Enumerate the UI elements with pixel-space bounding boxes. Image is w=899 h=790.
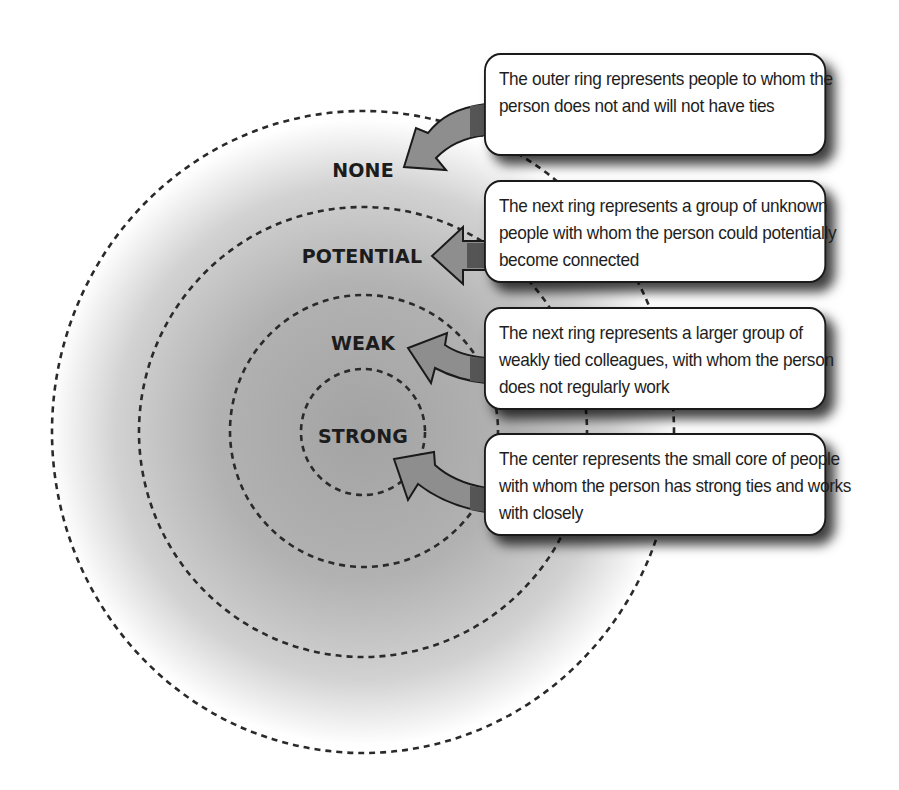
ring-label-none: NONE (332, 159, 394, 181)
ring-label-strong: STRONG (318, 425, 408, 447)
callout-strong: The center represents the small core of … (484, 433, 826, 536)
ring-label-weak: WEAK (331, 332, 395, 354)
callout-text-strong: The center represents the small core of … (499, 445, 852, 526)
callout-potential: The next ring represents a group of unkn… (484, 180, 826, 283)
callout-none: The outer ring represents people to whom… (484, 53, 826, 156)
callout-text-weak: The next ring represents a larger group … (499, 319, 852, 400)
callout-weak: The next ring represents a larger group … (484, 307, 826, 410)
callout-text-none: The outer ring represents people to whom… (499, 65, 852, 119)
ring-label-potential: POTENTIAL (302, 245, 423, 267)
tie-strength-diagram: NONE POTENTIAL WEAK STRONG The outer rin… (0, 0, 899, 790)
callout-text-potential: The next ring represents a group of unkn… (499, 192, 852, 273)
